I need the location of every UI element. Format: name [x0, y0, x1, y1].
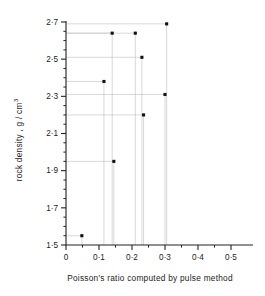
x-tick-label: 0 [64, 253, 69, 262]
y-axis-title: rock density , g / cm3 [12, 98, 24, 181]
x-tick-label: 0·2 [126, 253, 138, 262]
chart-canvas: 00·10·20·30·40·51·51·71·92·12·32·52·7Poi… [0, 0, 265, 296]
data-point [142, 113, 145, 116]
x-tick-label: 0·1 [93, 253, 105, 262]
x-tick-label: 0·3 [159, 253, 171, 262]
x-tick-label: 0·5 [225, 253, 237, 262]
data-point [112, 160, 115, 163]
data-point [134, 32, 137, 35]
y-axis-title-exponent: 3 [12, 98, 19, 102]
y-tick-label: 1·9 [46, 166, 58, 175]
y-tick-label: 2·1 [46, 129, 58, 138]
axis-lines [66, 21, 253, 245]
y-tick-label: 2·7 [46, 18, 58, 27]
data-point [165, 22, 168, 25]
y-tick-label: 1·7 [46, 204, 58, 213]
x-axis-title: Poisson's ratio computed by pulse method [67, 273, 233, 283]
data-point [102, 80, 105, 83]
scatter-chart: 00·10·20·30·40·51·51·71·92·12·32·52·7Poi… [0, 0, 265, 296]
data-point [163, 93, 166, 96]
y-axis-title-text: rock density , g / cm3 [12, 98, 24, 181]
data-point [111, 32, 114, 35]
data-point [140, 56, 143, 59]
data-point [80, 234, 83, 237]
y-tick-label: 1·5 [46, 241, 58, 250]
y-tick-label: 2·5 [46, 55, 58, 64]
y-tick-label: 2·3 [46, 92, 58, 101]
x-tick-label: 0·4 [192, 253, 204, 262]
